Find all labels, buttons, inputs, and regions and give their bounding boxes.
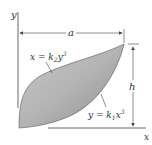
dimension-h-label: h	[129, 81, 135, 92]
dimension-a-label: a	[68, 27, 74, 38]
upper-curve-equation: x = k2y3	[30, 50, 67, 63]
lower-curve-leader	[101, 94, 106, 107]
lower-curve-equation: y = k1x3	[87, 108, 125, 121]
x-axis-label: x	[144, 132, 149, 142]
area-diagram: y x a h x = k2y3 y = k1x3	[0, 0, 152, 145]
upper-curve-leader	[46, 62, 52, 73]
y-axis-label: y	[10, 9, 17, 20]
